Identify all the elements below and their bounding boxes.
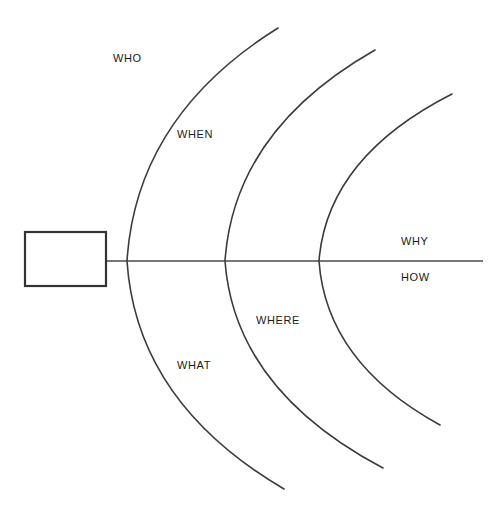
label-when: WHEN: [177, 129, 213, 140]
label-how: HOW: [401, 272, 430, 283]
label-why: WHY: [401, 236, 428, 247]
label-where: WHERE: [256, 315, 300, 326]
category-arc-3: [319, 94, 452, 425]
effect-box[interactable]: [25, 232, 106, 286]
category-arc-1: [127, 28, 284, 489]
label-who: WHO: [113, 53, 142, 64]
diagram-canvas: [0, 0, 501, 518]
fishbone-diagram: WHO WHEN WHAT WHERE WHY HOW: [0, 0, 501, 518]
label-what: WHAT: [177, 360, 211, 371]
category-arc-2: [225, 50, 383, 468]
